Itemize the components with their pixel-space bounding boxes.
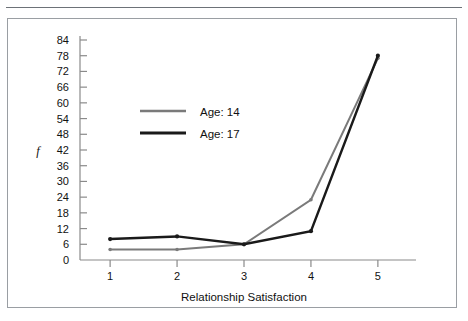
y-axis-tick-label: 54	[57, 113, 69, 125]
data-point	[242, 242, 246, 246]
legend-label-1: Age: 14	[200, 106, 240, 118]
x-axis-tick-label: 1	[107, 270, 113, 282]
y-axis-tick-label: 66	[57, 81, 69, 93]
figure-frame: 0612182430364248546066727884f12345Relati…	[7, 18, 457, 308]
x-axis-tick-label: 2	[174, 270, 180, 282]
line-chart: 0612182430364248546066727884f12345Relati…	[8, 19, 456, 307]
x-axis-tick-label: 4	[308, 270, 314, 282]
data-point	[175, 248, 179, 252]
y-axis-tick-label: 6	[63, 238, 69, 250]
x-axis-tick-label: 5	[375, 270, 381, 282]
data-point	[108, 248, 112, 252]
y-axis-tick-label: 0	[63, 254, 69, 266]
y-axis-tick-label: 78	[57, 50, 69, 62]
y-axis-tick-label: 84	[57, 34, 69, 46]
y-axis-tick-label: 36	[57, 160, 69, 172]
y-axis-title: f	[36, 144, 41, 158]
x-axis-tick-label: 3	[241, 270, 247, 282]
data-point	[376, 54, 380, 58]
y-axis-tick-label: 60	[57, 97, 69, 109]
y-axis-tick-label: 30	[57, 175, 69, 187]
y-axis-tick-label: 48	[57, 128, 69, 140]
y-axis-tick-label: 12	[57, 223, 69, 235]
data-point	[309, 229, 313, 233]
y-axis-tick-label: 72	[57, 65, 69, 77]
y-axis-tick-label: 42	[57, 144, 69, 156]
legend-label-2: Age: 17	[200, 128, 240, 140]
data-point	[309, 198, 313, 202]
top-horizontal-rule	[6, 7, 462, 8]
data-point	[175, 234, 179, 238]
series-line-1	[110, 58, 378, 249]
y-axis-tick-label: 24	[57, 191, 69, 203]
data-point	[108, 237, 112, 241]
figure-page: 0612182430364248546066727884f12345Relati…	[0, 0, 468, 321]
x-axis-title: Relationship Satisfaction	[181, 291, 307, 303]
y-axis-tick-label: 18	[57, 207, 69, 219]
series-line-2	[110, 56, 378, 245]
